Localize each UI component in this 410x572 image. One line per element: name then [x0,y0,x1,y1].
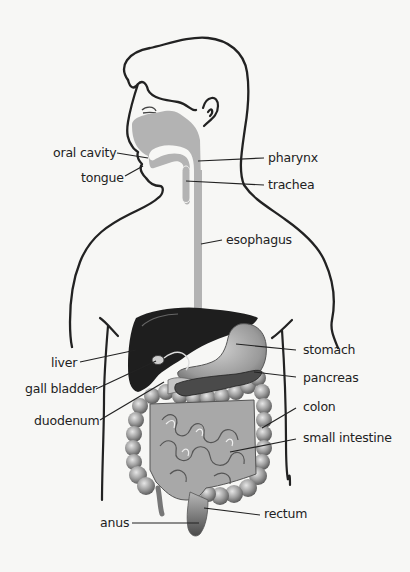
right-waist-outline [272,320,292,485]
label-stomach: stomach [303,343,355,357]
digestive-system-diagram [0,0,410,572]
label-tongue: tongue [81,171,124,185]
leader-rectum [204,508,260,515]
gall-bladder [152,356,164,365]
trachea-tube [182,166,190,203]
label-liver: liver [51,356,77,370]
label-colon: colon [303,400,336,414]
ear-outline [203,98,218,126]
label-duodenum: duodenum [34,414,100,428]
label-trachea: trachea [268,178,314,192]
eye [142,107,156,113]
label-rectum: rectum [264,507,307,521]
leader-liver [80,350,136,362]
esophagus-tube [194,170,202,310]
label-gall-bladder: gall bladder [25,382,97,396]
leader-esophagus [201,240,222,244]
head-outline [124,38,338,348]
left-waist-outline [100,318,118,500]
label-small-intestine: small intestine [303,431,392,445]
label-oral-cavity: oral cavity [53,146,116,160]
rectum [187,492,208,536]
label-anus: anus [100,516,129,530]
label-pancreas: pancreas [303,371,359,385]
leader-oral-cavity [117,153,148,158]
nasal-oral-cavity [132,111,201,300]
label-esophagus: esophagus [226,233,292,247]
label-pharynx: pharynx [268,151,318,165]
leader-pharynx [198,158,264,161]
